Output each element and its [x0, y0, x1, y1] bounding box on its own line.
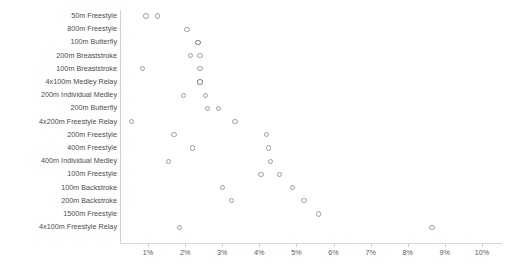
data-point: [203, 93, 208, 98]
x-axis-tick-label: 7%: [365, 249, 375, 257]
y-axis-label: 200m Butterfly: [0, 104, 117, 112]
y-axis-label: 200m Freestyle: [0, 131, 117, 139]
x-axis-tick-label: 10%: [475, 249, 489, 257]
y-axis-label: 100m Breaststroke: [0, 65, 117, 73]
x-axis-tick-label: 8%: [402, 249, 412, 257]
y-axis-label: 200m Backstroke: [0, 197, 117, 205]
data-point: [216, 106, 221, 111]
y-axis-label: 4x100m Freestyle Relay: [0, 223, 117, 231]
data-point: [129, 119, 134, 124]
y-axis-label: 4x200m Freestyle Relay: [0, 118, 117, 126]
x-axis-tick: [371, 244, 372, 247]
x-axis-tick: [445, 244, 446, 247]
x-axis-tick-label: 6%: [328, 249, 338, 257]
data-point: [220, 185, 225, 190]
data-point: [301, 198, 306, 203]
x-axis-tick-label: 1%: [143, 249, 153, 257]
data-point: [140, 66, 145, 71]
x-axis-tick-label: 2%: [180, 249, 190, 257]
x-axis-tick-label: 3%: [217, 249, 227, 257]
data-point: [264, 132, 269, 137]
data-point: [155, 13, 160, 18]
y-axis-label: 4x100m Medley Relay: [0, 78, 117, 86]
data-point: [190, 145, 195, 150]
data-point: [195, 40, 200, 45]
data-point: [166, 159, 171, 164]
data-point: [143, 13, 148, 18]
y-axis-label: 100m Butterfly: [0, 38, 117, 46]
y-axis-label: 50m Freestyle: [0, 12, 117, 20]
data-point: [197, 66, 202, 71]
y-axis-label: 200m Individual Medley: [0, 91, 117, 99]
x-axis-tick: [259, 244, 260, 247]
x-axis-tick: [296, 244, 297, 247]
x-axis-tick: [148, 244, 149, 247]
data-point: [232, 119, 237, 124]
x-axis-tick: [334, 244, 335, 247]
x-axis-tick-label: 9%: [440, 249, 450, 257]
data-point: [197, 53, 202, 58]
x-axis-tick: [408, 244, 409, 247]
data-point: [181, 93, 186, 98]
y-axis-label: 400m Freestyle: [0, 144, 117, 152]
y-axis-label: 800m Freestyle: [0, 25, 117, 33]
y-axis-label: 200m Breaststroke: [0, 52, 117, 60]
y-axis-label: 400m Individual Medley: [0, 157, 117, 165]
x-axis-tick: [185, 244, 186, 247]
x-axis-tick-label: 4%: [254, 249, 264, 257]
y-axis-label: 1500m Freestyle: [0, 210, 117, 218]
y-axis-label: 100m Freestyle: [0, 170, 117, 178]
x-axis-tick: [222, 244, 223, 247]
y-axis-line: [120, 10, 121, 243]
x-axis-tick-label: 5%: [291, 249, 301, 257]
data-point: [171, 132, 176, 137]
data-point: [277, 172, 282, 177]
x-axis-tick: [482, 244, 483, 247]
data-point: [290, 185, 295, 190]
data-point: [316, 211, 321, 216]
data-point: [177, 225, 182, 230]
data-point: [268, 159, 273, 164]
data-point: [266, 145, 271, 150]
scatter-chart: 50m Freestyle800m Freestyle100m Butterfl…: [0, 0, 512, 270]
y-axis-label: 100m Backstroke: [0, 184, 117, 192]
data-point: [229, 198, 234, 203]
data-point: [197, 79, 202, 84]
data-point: [258, 172, 263, 177]
data-point: [205, 106, 210, 111]
data-point: [429, 225, 434, 230]
data-point: [184, 27, 189, 32]
data-point: [188, 53, 193, 58]
